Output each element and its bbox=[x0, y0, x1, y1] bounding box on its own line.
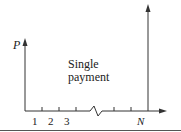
future-payment-arrow bbox=[146, 4, 151, 111]
tick-label-1: 1 bbox=[32, 115, 38, 127]
time-axis bbox=[25, 106, 167, 116]
caption-line-1: Single bbox=[68, 57, 99, 71]
present-value-arrow bbox=[23, 38, 28, 111]
present-value-label: P bbox=[12, 38, 21, 52]
tick-label-3: 3 bbox=[64, 115, 70, 127]
caption-line-2: payment bbox=[68, 70, 110, 84]
cash-flow-diagram: P 1 2 3 N Single payment bbox=[0, 0, 181, 132]
period-n-label: N bbox=[136, 115, 145, 127]
tick-label-2: 2 bbox=[48, 115, 54, 127]
